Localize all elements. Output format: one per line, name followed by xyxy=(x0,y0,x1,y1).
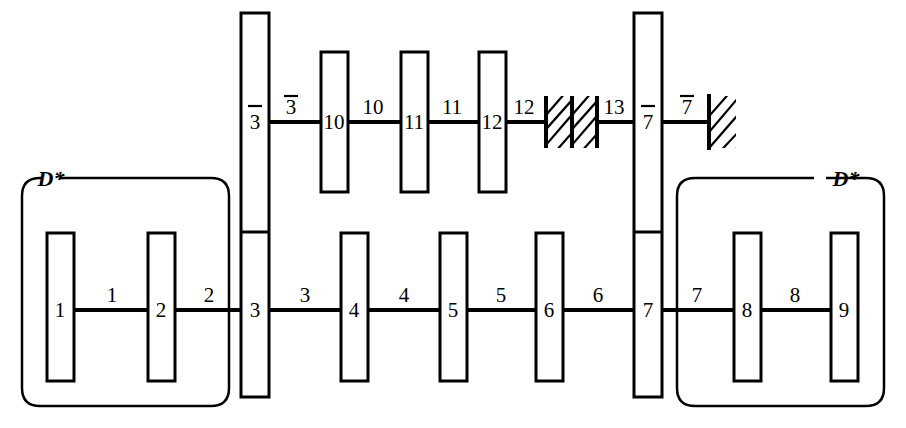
edge-2-label: 2 xyxy=(204,283,215,307)
edge-5-label: 5 xyxy=(496,283,507,307)
node-10-label: 10 xyxy=(324,110,345,134)
tall-bar-7-body xyxy=(634,13,662,397)
edge-3-label: 3 xyxy=(300,283,311,307)
tall-bar-3 xyxy=(241,13,269,397)
kinematic-graph-svg: D* D* xyxy=(0,0,906,428)
edge-10-label: 10 xyxy=(363,95,384,119)
edge-7-label: 7 xyxy=(692,283,703,307)
group-left-label: D* xyxy=(37,166,66,191)
node-1-label: 1 xyxy=(55,298,66,322)
node-2-label: 2 xyxy=(156,298,167,322)
node-6-label: 6 xyxy=(544,298,555,322)
kinematic-graph-diagram: D* D* xyxy=(0,0,906,428)
edge-13-label: 13 xyxy=(604,95,625,119)
node-3-label: 3 xyxy=(250,298,261,322)
ground-middle-icon xyxy=(540,92,606,162)
edge-7bar-label: 7 xyxy=(682,95,693,119)
node-3bar-label: 3 xyxy=(250,110,261,134)
group-right-label: D* xyxy=(832,166,861,191)
node-9-label: 9 xyxy=(839,298,850,322)
edge-6-label: 6 xyxy=(593,283,604,307)
edge-3bar-label: 3 xyxy=(286,95,297,119)
node-8-label: 8 xyxy=(742,298,753,322)
node-5-label: 5 xyxy=(448,298,459,322)
edge-11-label: 11 xyxy=(442,95,462,119)
node-4-label: 4 xyxy=(349,298,360,322)
node-12-label: 12 xyxy=(482,110,503,134)
ground-right-icon xyxy=(704,90,746,164)
node-7-label: 7 xyxy=(643,298,654,322)
tall-bar-3-body xyxy=(241,13,269,397)
edge-1-label: 1 xyxy=(107,283,118,307)
edge-12-label: 12 xyxy=(514,95,535,119)
node-11-label: 11 xyxy=(404,110,424,134)
edge-8-label: 8 xyxy=(790,283,801,307)
edge-4-label: 4 xyxy=(399,283,410,307)
node-7bar-label: 7 xyxy=(643,110,654,134)
tall-bar-7 xyxy=(634,13,662,397)
